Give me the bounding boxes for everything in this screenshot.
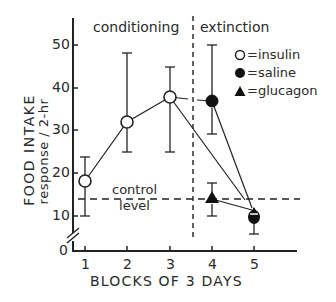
legend: =insulin =saline =glucagon <box>233 46 318 100</box>
legend-item-saline: =saline <box>233 64 318 82</box>
y-tick-label-50: 50 <box>52 36 70 52</box>
glucagon-line <box>212 199 252 210</box>
x-tick-label-5: 5 <box>250 256 259 272</box>
y-tick-label-20: 20 <box>52 164 70 180</box>
series-lines <box>85 97 252 210</box>
x-tick-label-2: 2 <box>123 256 132 272</box>
saline-point-4 <box>206 95 218 107</box>
y-tick-label-40: 40 <box>52 79 70 95</box>
filled-triangle-icon <box>233 85 247 97</box>
y-tick-label-0: 0 <box>59 242 68 258</box>
insulin-extinction-line <box>170 97 245 200</box>
insulin-point-1 <box>79 175 91 187</box>
legend-label-glucagon: =glucagon <box>247 82 318 100</box>
legend-item-insulin: =insulin <box>233 46 318 64</box>
open-circle-icon <box>233 49 247 61</box>
phase-label-extinction: extinction <box>200 19 269 35</box>
control-level-label: control level <box>112 182 157 214</box>
legend-item-glucagon: =glucagon <box>233 82 318 100</box>
insulin-point-3 <box>164 91 176 103</box>
y-axis-subtitle: response / 2-hr <box>36 92 51 212</box>
x-tick-label-3: 3 <box>166 256 175 272</box>
filled-circle-icon <box>233 67 247 79</box>
y-tick-label-30: 30 <box>52 121 70 137</box>
control-label-line2: level <box>112 198 157 214</box>
phase-label-conditioning: conditioning <box>93 19 179 35</box>
legend-label-insulin: =insulin <box>247 46 300 64</box>
x-axis-title: BLOCKS OF 3 DAYS <box>90 273 243 289</box>
legend-label-saline: =saline <box>247 64 296 82</box>
saline-line <box>212 101 252 208</box>
x-tick-label-1: 1 <box>81 256 90 272</box>
insulin-point-2 <box>121 116 133 128</box>
control-label-line1: control <box>112 182 157 198</box>
y-tick-label-10: 10 <box>52 207 70 223</box>
saline-point-5 <box>248 210 260 224</box>
glucagon-point-4 <box>205 191 219 203</box>
x-tick-label-4: 4 <box>208 256 217 272</box>
